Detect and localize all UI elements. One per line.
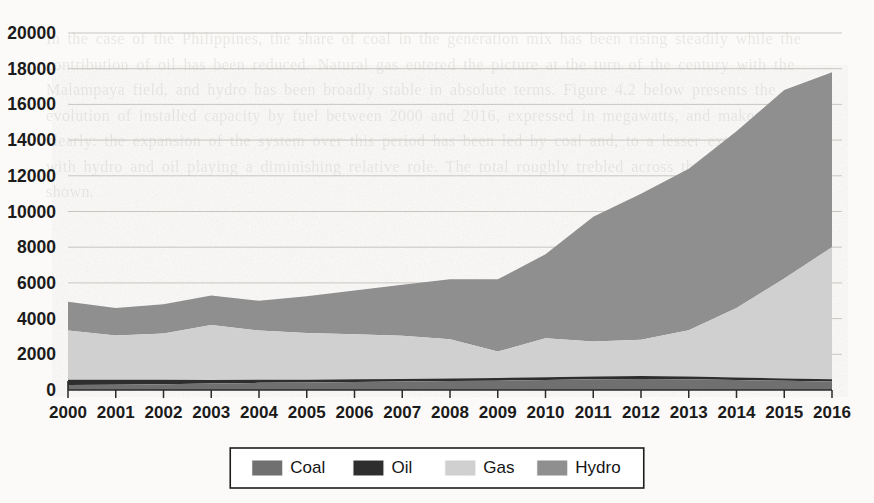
y-axis-tick-label: 18000	[7, 59, 56, 79]
legend-swatch-coal	[252, 461, 282, 476]
y-axis-tick-label: 10000	[7, 202, 56, 222]
x-axis-tick-label: 2014	[718, 403, 756, 422]
y-axis-tick-label: 4000	[17, 309, 56, 329]
y-axis-tick-label: 14000	[7, 130, 56, 150]
y-axis-tick-label: 0	[46, 380, 56, 400]
x-axis-tick-label: 2012	[622, 403, 660, 422]
x-axis-tick-label: 2000	[49, 403, 87, 422]
x-axis-tick-label: 2006	[336, 403, 374, 422]
x-axis-tick-label: 2011	[575, 403, 612, 422]
x-axis-tick-label: 2001	[97, 403, 135, 422]
x-axis-tick-label: 2015	[765, 403, 803, 422]
x-axis-tick-label: 2013	[670, 403, 708, 422]
x-axis-tick-label: 2008	[431, 403, 469, 422]
legend-item-hydro[interactable]: Hydro	[537, 458, 620, 477]
y-axis-tick-label: 12000	[7, 166, 56, 186]
legend-label-hydro: Hydro	[575, 458, 620, 477]
y-axis-tick-label: 6000	[17, 273, 56, 293]
legend-swatch-gas	[445, 461, 475, 476]
x-axis-tick-label: 2005	[288, 403, 326, 422]
chart-canvas: 0200040006000800010000120001400016000180…	[0, 0, 874, 503]
x-axis-tick-label: 2010	[527, 403, 565, 422]
x-axis-tick-label: 2007	[383, 403, 421, 422]
legend-label-coal: Coal	[290, 458, 325, 477]
legend-item-oil[interactable]: Oil	[353, 458, 412, 477]
x-axis-tick-label: 2003	[192, 403, 230, 422]
legend-swatch-oil	[353, 461, 383, 476]
y-axis-tick-label: 8000	[17, 237, 56, 257]
y-axis-tick-label: 20000	[7, 23, 56, 43]
y-axis-tick-labels: 0200040006000800010000120001400016000180…	[7, 23, 56, 400]
stacked-area-chart: 0200040006000800010000120001400016000180…	[0, 0, 874, 503]
area-series-group	[68, 72, 832, 390]
legend-label-oil: Oil	[391, 458, 412, 477]
x-axis-tick-label: 2002	[145, 403, 183, 422]
x-axis-tick-labels: 2000200120022003200420052006200720082009…	[49, 403, 851, 422]
legend-swatch-hydro	[537, 461, 567, 476]
y-axis-tick-label: 16000	[7, 94, 56, 114]
x-axis-tick-label: 2004	[240, 403, 278, 422]
chart-legend: CoalOilGasHydro	[230, 448, 644, 488]
x-axis-tick-label: 2009	[479, 403, 517, 422]
legend-label-gas: Gas	[483, 458, 514, 477]
x-axis-tick-label: 2016	[813, 403, 851, 422]
y-axis-tick-label: 2000	[17, 344, 56, 364]
